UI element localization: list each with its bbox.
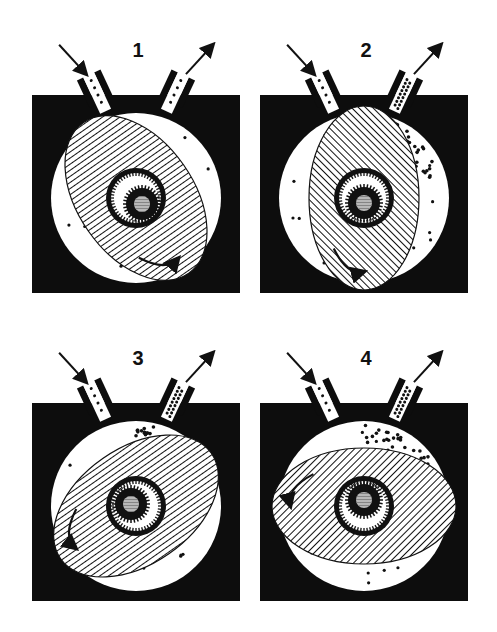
- stage-label: 3: [132, 347, 143, 369]
- intake-arrow-icon: [59, 348, 86, 388]
- intake-arrow-icon: [59, 40, 86, 80]
- exhaust-arrow-icon: [186, 40, 213, 80]
- gear-assembly-icon: [334, 168, 394, 228]
- intake-arrow-icon: [287, 40, 314, 80]
- engine-panel-4: 4: [260, 341, 468, 601]
- exhaust-arrow-icon: [414, 348, 441, 388]
- exhaust-arrow-icon: [186, 348, 213, 388]
- diagram-canvas: 1234: [0, 0, 497, 632]
- gear-assembly-icon: [334, 476, 394, 536]
- engine-panel-2: 2: [260, 33, 468, 293]
- exhaust-arrow-icon: [414, 40, 441, 80]
- stage-label: 1: [132, 39, 143, 61]
- stage-label: 4: [360, 347, 372, 369]
- gear-assembly-icon: [106, 168, 166, 228]
- gear-assembly-icon: [106, 476, 166, 536]
- engine-panel-1: 1: [32, 33, 240, 306]
- intake-arrow-icon: [287, 348, 314, 388]
- engine-panel-3: 3: [27, 341, 244, 606]
- stage-label: 2: [360, 39, 371, 61]
